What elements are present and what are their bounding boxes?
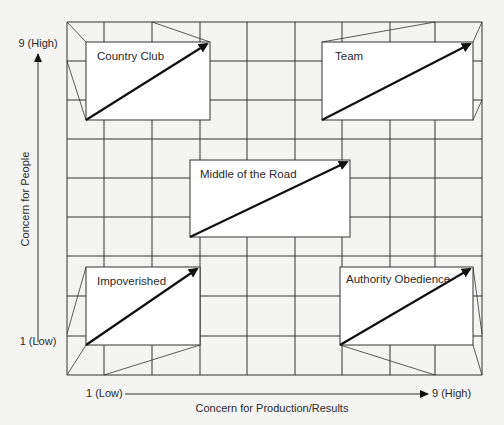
y-axis-title: Concern for People xyxy=(19,152,31,247)
connector-line xyxy=(67,61,86,120)
connector-line xyxy=(67,22,86,42)
connector-line xyxy=(473,100,482,120)
connector-line xyxy=(67,267,86,334)
style-box-authority-obedience: Authority Obedience xyxy=(340,267,473,345)
style-box-title: Team xyxy=(335,50,363,62)
style-box-middle-of-the-road: Middle of the Road xyxy=(190,160,350,237)
style-box-team: Team xyxy=(322,42,473,120)
connector-line xyxy=(322,22,435,42)
style-box-title: Country Club xyxy=(97,50,164,62)
y-axis-low-label: 1 (Low) xyxy=(20,335,57,347)
connector-line xyxy=(67,345,86,375)
connector-line xyxy=(152,22,210,42)
managerial-grid-diagram: Country ClubTeamMiddle of the RoadImpove… xyxy=(0,0,504,425)
style-box-title: Middle of the Road xyxy=(200,168,297,180)
y-axis: 9 (High) 1 (Low) Concern for People xyxy=(18,37,57,347)
connector-line xyxy=(340,345,435,375)
style-box-title: Impoverished xyxy=(97,275,166,287)
x-axis: 1 (Low) 9 (High) Concern for Production/… xyxy=(86,387,471,414)
style-box-impoverished: Impoverished xyxy=(86,267,200,345)
connector-line xyxy=(473,267,482,334)
style-boxes: Country ClubTeamMiddle of the RoadImpove… xyxy=(86,42,473,345)
x-axis-low-label: 1 (Low) xyxy=(86,387,123,399)
style-box-country-club: Country Club xyxy=(86,42,210,120)
connector-line xyxy=(473,22,482,42)
x-axis-title: Concern for Production/Results xyxy=(196,402,349,414)
connector-line xyxy=(473,345,482,375)
style-box-title: Authority Obedience xyxy=(346,273,450,285)
y-axis-high-label: 9 (High) xyxy=(18,37,57,49)
x-axis-high-label: 9 (High) xyxy=(432,387,471,399)
